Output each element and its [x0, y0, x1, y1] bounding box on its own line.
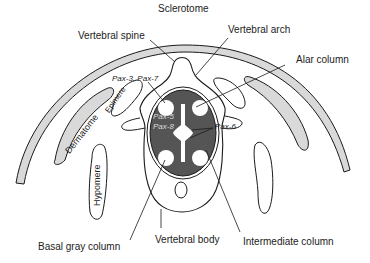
label-alar-column: Alar column — [296, 55, 349, 65]
basal-column-left — [158, 150, 174, 166]
label-basal-gray-column: Basal gray column — [38, 242, 120, 252]
label-sclerotome: Sclerotome — [158, 4, 209, 14]
label-vertebral-arch: Vertebral arch — [228, 25, 290, 35]
label-pax-3-7: Pax-3, Pax-7 — [112, 75, 158, 83]
notochord — [175, 182, 187, 198]
leader-vertebral-arch — [196, 38, 228, 75]
embryo-cross-section — [0, 0, 370, 263]
lateral-process-left — [122, 118, 145, 130]
label-hypomere: Hypomere — [93, 164, 102, 206]
label-pax-6: Pax-6 — [215, 123, 236, 131]
label-intermediate-column: Intermediate column — [243, 237, 334, 247]
label-vertebral-body: Vertebral body — [155, 235, 220, 245]
label-pax-8: Pax-8 — [153, 123, 174, 131]
hypomere-right — [254, 142, 273, 213]
basal-column-right — [192, 150, 208, 166]
label-vertebral-spine: Vertebral spine — [78, 31, 145, 41]
label-pax-5: Pax-5 — [153, 113, 174, 121]
